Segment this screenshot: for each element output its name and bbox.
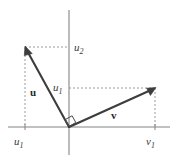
label-u1-subscript: 1 xyxy=(20,141,24,150)
label-u2: u2 xyxy=(74,42,84,56)
vector-v-arrowhead xyxy=(147,88,156,96)
label-u2-subscript: 2 xyxy=(80,47,84,56)
label-v2: u1 xyxy=(53,82,63,96)
label-vector-u: u xyxy=(30,87,36,98)
vector-u-arrowhead xyxy=(24,46,32,56)
label-u1: u1 xyxy=(14,136,24,150)
label-vector-v: v xyxy=(111,110,117,121)
vector-diagram: u2 u1 u1 v1 u v xyxy=(0,0,175,161)
label-v1-subscript: 1 xyxy=(151,141,155,150)
axes xyxy=(8,10,170,155)
vector-v xyxy=(69,88,156,128)
vector-v-shaft xyxy=(69,90,151,127)
projection-lines xyxy=(25,47,155,127)
label-v1: v1 xyxy=(146,136,155,150)
label-v2-subscript: 1 xyxy=(59,87,63,96)
